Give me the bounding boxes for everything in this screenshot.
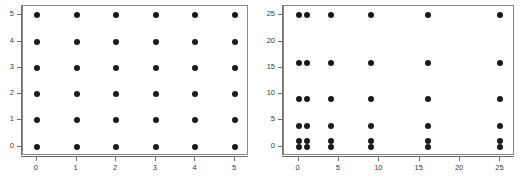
data-point xyxy=(113,12,119,18)
x-tick-label: 1 xyxy=(73,164,77,172)
data-point xyxy=(296,123,302,129)
data-point xyxy=(368,60,374,66)
x-axis-line xyxy=(21,156,248,157)
data-point xyxy=(425,138,431,144)
data-point xyxy=(328,123,334,129)
data-point xyxy=(113,91,119,97)
data-point xyxy=(296,60,302,66)
data-point xyxy=(113,65,119,71)
data-point xyxy=(497,12,503,18)
y-axis-line xyxy=(21,5,22,155)
data-point xyxy=(304,138,310,144)
data-point xyxy=(368,138,374,144)
x-tick-mark xyxy=(378,157,379,161)
data-point xyxy=(34,39,40,45)
y-tick-mark xyxy=(17,14,21,15)
data-point xyxy=(192,39,198,45)
x-tick-mark xyxy=(459,157,460,161)
x-tick-mark xyxy=(194,157,195,161)
data-point xyxy=(296,144,302,150)
data-point xyxy=(296,96,302,102)
data-point xyxy=(328,144,334,150)
x-axis-line xyxy=(282,156,514,157)
scatter-plot-figure: 012345012345 05101520250510152025 xyxy=(0,0,525,189)
y-tick-label: 15 xyxy=(262,63,275,71)
x-tick-label: 2 xyxy=(113,164,117,172)
y-tick-label: 25 xyxy=(262,11,275,19)
x-tick-label: 0 xyxy=(295,164,299,172)
data-point xyxy=(34,65,40,71)
y-tick-label: 5 xyxy=(262,116,275,124)
left-plot-area xyxy=(23,6,247,154)
x-tick-mark xyxy=(76,157,77,161)
data-point xyxy=(368,144,374,150)
left-scatter-panel: 012345012345 xyxy=(0,0,262,189)
x-tick-mark xyxy=(36,157,37,161)
y-tick-mark xyxy=(278,146,282,147)
data-point xyxy=(425,96,431,102)
data-point xyxy=(497,138,503,144)
data-point xyxy=(192,91,198,97)
x-tick-label: 5 xyxy=(232,164,236,172)
data-point xyxy=(328,138,334,144)
data-point xyxy=(497,96,503,102)
data-point xyxy=(153,65,159,71)
y-tick-label: 2 xyxy=(0,89,14,97)
data-point xyxy=(497,60,503,66)
y-tick-label: 20 xyxy=(262,37,275,45)
data-point xyxy=(153,39,159,45)
data-point xyxy=(296,138,302,144)
data-point xyxy=(368,12,374,18)
data-point xyxy=(153,91,159,97)
data-point xyxy=(113,117,119,123)
x-tick-label: 3 xyxy=(153,164,157,172)
data-point xyxy=(74,144,80,150)
x-tick-label: 4 xyxy=(192,164,196,172)
y-tick-mark xyxy=(17,41,21,42)
x-tick-mark xyxy=(419,157,420,161)
x-tick-mark xyxy=(338,157,339,161)
x-tick-label: 20 xyxy=(455,164,463,172)
data-point xyxy=(304,60,310,66)
x-tick-mark xyxy=(115,157,116,161)
data-point xyxy=(192,65,198,71)
data-point xyxy=(74,91,80,97)
data-point xyxy=(425,12,431,18)
data-point xyxy=(232,65,238,71)
data-point xyxy=(304,96,310,102)
data-point xyxy=(74,12,80,18)
data-point xyxy=(328,96,334,102)
data-point xyxy=(192,117,198,123)
y-tick-mark xyxy=(278,119,282,120)
x-tick-label: 5 xyxy=(336,164,340,172)
y-tick-mark xyxy=(17,146,21,147)
data-point xyxy=(304,144,310,150)
data-point xyxy=(34,144,40,150)
x-tick-label: 10 xyxy=(374,164,382,172)
data-point xyxy=(328,12,334,18)
data-point xyxy=(34,12,40,18)
data-point xyxy=(232,117,238,123)
y-tick-mark xyxy=(278,67,282,68)
data-point xyxy=(368,96,374,102)
y-tick-label: 3 xyxy=(0,63,14,71)
data-point xyxy=(232,12,238,18)
x-tick-mark xyxy=(298,157,299,161)
data-point xyxy=(113,39,119,45)
data-point xyxy=(74,39,80,45)
data-point xyxy=(425,60,431,66)
data-point xyxy=(192,12,198,18)
data-point xyxy=(34,117,40,123)
data-point xyxy=(153,144,159,150)
y-axis-line xyxy=(282,5,283,155)
y-tick-label: 4 xyxy=(0,37,14,45)
y-tick-label: 5 xyxy=(0,10,14,18)
x-tick-label: 0 xyxy=(34,164,38,172)
y-tick-label: 1 xyxy=(0,116,14,124)
x-tick-label: 15 xyxy=(415,164,423,172)
y-tick-label: 0 xyxy=(262,142,275,150)
y-tick-mark xyxy=(278,93,282,94)
data-point xyxy=(232,39,238,45)
data-point xyxy=(304,123,310,129)
right-plot-area xyxy=(284,6,513,154)
